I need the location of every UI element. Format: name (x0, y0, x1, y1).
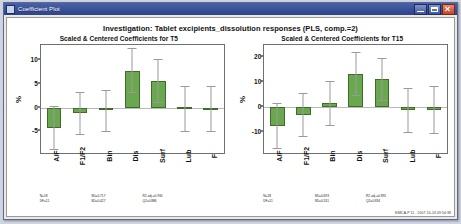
window-title: Coefficient Plot (18, 6, 414, 12)
error-bar-line (210, 86, 211, 131)
bar-cell[interactable] (343, 45, 369, 153)
stats-q2-value-t5: Q2=0.886 (143, 199, 225, 204)
y-axis-label-text-t5: % (14, 95, 23, 102)
error-bar-line (355, 52, 356, 94)
bar-cell[interactable] (317, 45, 343, 153)
error-bar-cap-lower (75, 134, 84, 135)
x-axis-label: Bin (316, 154, 342, 184)
y-axis-label-text-t15: % (238, 95, 247, 102)
error-bar-cap-lower (299, 136, 308, 137)
error-bar-cap-lower (154, 102, 163, 103)
error-bar-cap-upper (273, 103, 282, 104)
y-tick-label: 10 (254, 78, 261, 85)
plot-row-t5: % 1050-5 (13, 44, 225, 154)
error-bar-line (53, 106, 54, 150)
error-bar-line (381, 58, 382, 100)
error-bar-cap-lower (351, 95, 360, 96)
error-bar-cap-upper (128, 48, 137, 49)
x-axis-label-text: Lub (409, 150, 416, 163)
bar-cell[interactable] (290, 45, 316, 153)
x-axis-label: Lub (395, 154, 421, 184)
y-axis-ticks-t15: 20100-10 (248, 44, 263, 154)
error-bar-line (132, 48, 133, 92)
error-bar-cap-upper (404, 88, 413, 89)
bar-cell[interactable] (41, 45, 67, 153)
x-axis-label: Lub (172, 154, 198, 184)
x-axis-label: A/F (263, 154, 289, 184)
error-bar-line (277, 103, 278, 148)
x-axis-label-text: Lub (185, 150, 192, 163)
close-icon[interactable] (442, 4, 455, 15)
x-axis-label-text: A/F (276, 150, 283, 161)
x-axis-label-text: Dis (356, 151, 363, 162)
error-bar-line (434, 86, 435, 132)
bar-cell[interactable] (369, 45, 395, 153)
x-axis-label-text: Surf (382, 149, 389, 163)
error-bar-cap-lower (430, 133, 439, 134)
bar-cell[interactable] (171, 45, 197, 153)
minimize-icon[interactable] (414, 4, 427, 15)
x-axis-labels-t5: A/FF1/F2BinDisSurfLubF (40, 154, 225, 184)
x-axis-label: F1/F2 (290, 154, 316, 184)
x-axis-label-text: A/F (53, 150, 60, 161)
bar-cell[interactable] (145, 45, 171, 153)
bar-cell[interactable] (67, 45, 93, 153)
error-bar-line (106, 90, 107, 131)
x-axis-label-text: Bin (329, 150, 336, 161)
error-bar-cap-lower (206, 131, 215, 132)
x-axis-label-text: Dis (132, 151, 139, 162)
error-bar-cap-lower (325, 125, 334, 126)
error-bar-cap-lower (377, 100, 386, 101)
chart-title-t5: Scaled & Centered Coefficients for T5 (13, 35, 225, 42)
stats-sd2-value-t5: SD=0.427 (91, 199, 142, 204)
window-app-icon (6, 5, 15, 14)
bar-cell[interactable] (395, 45, 421, 153)
x-axis-label-text: F1/F2 (303, 147, 310, 165)
window-controls (414, 4, 455, 15)
stats-n-t5: N=18 DF=11 (40, 194, 91, 204)
error-bar-cap-upper (180, 86, 189, 87)
x-axis-label-text: Bin (106, 150, 113, 161)
error-bar-line (79, 92, 80, 133)
desktop-background: Coefficient Plot Investigation: Tablet e… (0, 0, 461, 224)
stats-df-value-t15: DF=11 (263, 199, 314, 204)
plot-row-t15: % 20100-10 (236, 44, 448, 154)
maximize-icon[interactable] (428, 4, 441, 15)
error-bar-cap-lower (128, 92, 137, 93)
plot-area-t15[interactable] (263, 44, 448, 154)
plot-client-area: Investigation: Tablet excipients_dissolu… (6, 17, 455, 217)
x-axis-label: F (422, 154, 448, 184)
x-axis-label: F1/F2 (66, 154, 92, 184)
y-axis-label-t15: % (236, 44, 248, 154)
bars-group-t5 (41, 45, 224, 153)
error-bar-cap-upper (49, 106, 58, 107)
window-titlebar[interactable]: Coefficient Plot (4, 3, 457, 15)
plot-area-t5[interactable] (40, 44, 225, 154)
error-bar-cap-upper (299, 93, 308, 94)
x-axis-label: Dis (119, 154, 145, 184)
bar-cell[interactable] (93, 45, 119, 153)
stats-row-t15: N=18 DF=11 SD=0.693 SD=0.531 R2 adj.=0.8… (263, 194, 448, 204)
error-bar-line (408, 88, 409, 133)
error-bar-cap-upper (154, 59, 163, 60)
chart-panel-t5: Scaled & Centered Coefficients for T5 % … (13, 35, 225, 204)
y-tick-label: -10 (252, 127, 261, 134)
error-bar-cap-lower (273, 148, 282, 149)
error-bar-cap-upper (102, 90, 111, 91)
charts-container: Scaled & Centered Coefficients for T5 % … (7, 35, 454, 204)
x-axis-label: Dis (343, 154, 369, 184)
bar-cell[interactable] (119, 45, 145, 153)
bar-cell[interactable] (421, 45, 447, 153)
error-bar-cap-upper (430, 86, 439, 87)
error-bar-line (329, 81, 330, 126)
chart-panel-t15: Scaled & Centered Coefficients for T15 %… (236, 35, 448, 204)
stats-sd-t5: SD=0.717 SD=0.427 (91, 194, 142, 204)
error-bar-cap-upper (206, 86, 215, 87)
bar-cell[interactable] (198, 45, 224, 153)
stats-row-t5: N=18 DF=11 SD=0.717 SD=0.427 R2 adj.=0.9… (40, 194, 225, 204)
bar-cell[interactable] (264, 45, 290, 153)
error-bar-cap-upper (351, 52, 360, 53)
error-bar-cap-lower (180, 131, 189, 132)
stats-n-t15: N=18 DF=11 (263, 194, 314, 204)
error-bar-line (184, 86, 185, 131)
